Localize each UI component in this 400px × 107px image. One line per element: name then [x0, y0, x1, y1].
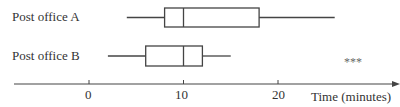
- x-axis-title: Time (minutes): [311, 89, 391, 105]
- tick-label-0: 0: [85, 87, 92, 103]
- iqr-box-a: [165, 8, 260, 27]
- tick-label-10: 10: [175, 87, 188, 103]
- x-axis-arrow-icon: [392, 81, 400, 87]
- asterisk-annotation: ***: [344, 55, 362, 70]
- tick-label-20: 20: [272, 87, 285, 103]
- iqr-box-b: [146, 46, 203, 66]
